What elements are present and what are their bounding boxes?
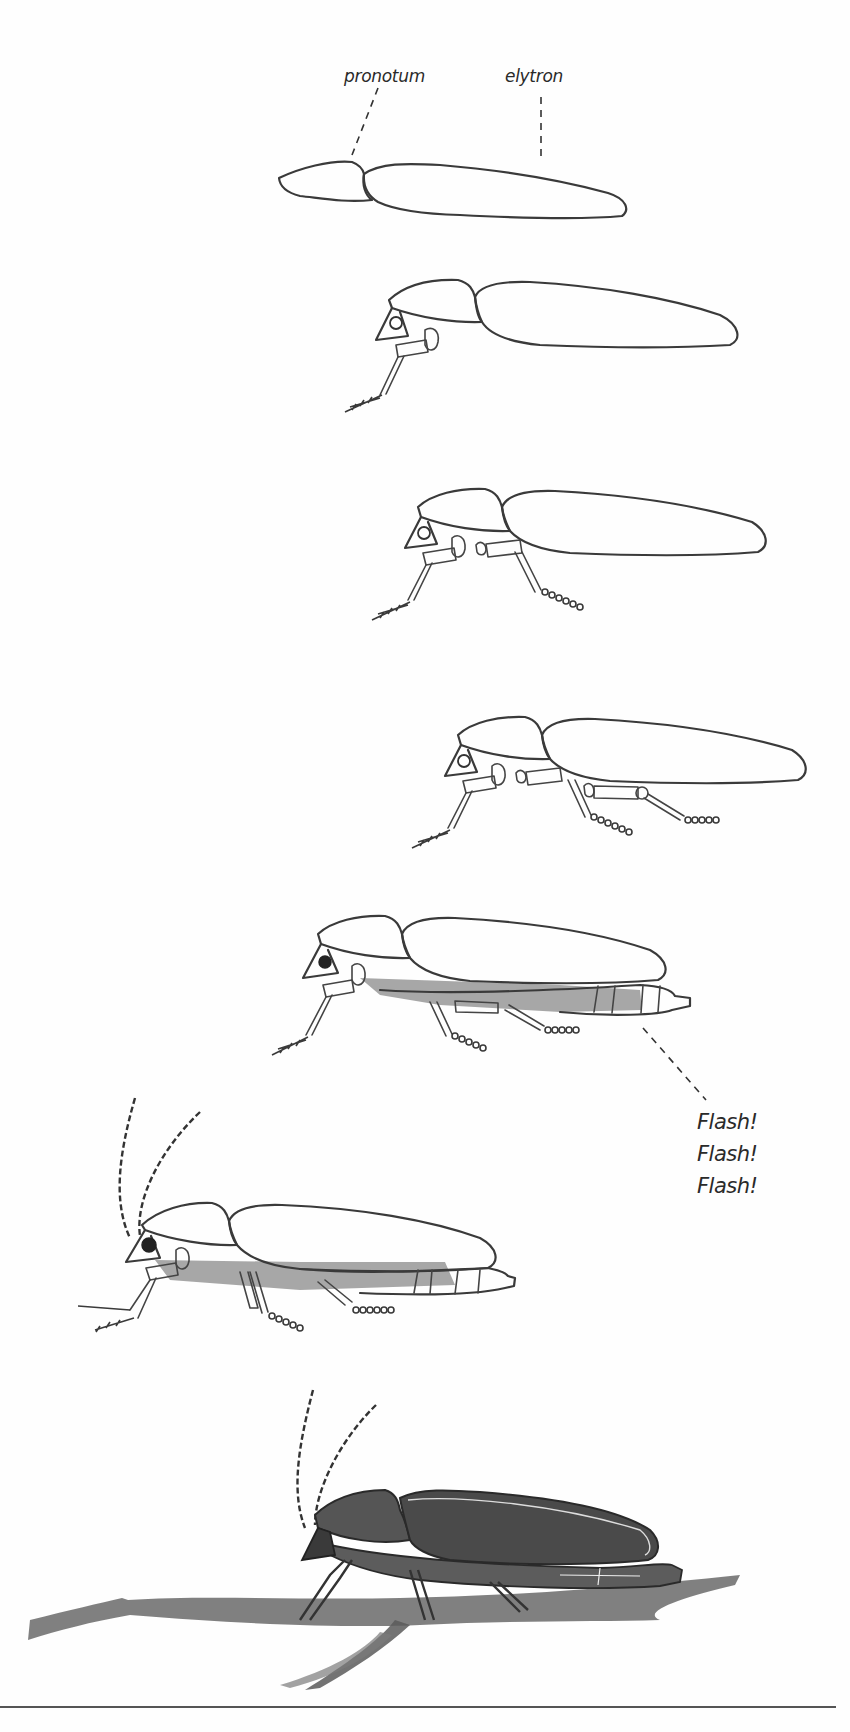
elytron-label: elytron [505, 66, 563, 86]
stage-1-outline [279, 88, 626, 218]
flash-leader-line [643, 1028, 706, 1100]
firefly-diagram: pronotum elytron Flash! Flash! Flash! [0, 0, 850, 1732]
stage-2-head-leg [345, 280, 737, 412]
eye-icon [458, 755, 470, 767]
eye-icon [418, 527, 430, 539]
stage-5-shaded-abdomen [272, 916, 706, 1100]
stage-4-three-legs [412, 717, 806, 848]
flash-text: Flash! Flash! Flash! [697, 1106, 757, 1202]
eye-icon [390, 317, 402, 329]
illustration [0, 0, 850, 1732]
pronotum-leader-line [352, 88, 378, 155]
stage-3-two-legs [372, 489, 766, 620]
eye-icon [142, 1238, 156, 1252]
flash-line-3: Flash! [697, 1170, 757, 1202]
stage-6-antennae [78, 1098, 515, 1332]
stage-7-on-twig [28, 1390, 740, 1690]
eye-icon [319, 956, 331, 968]
pronotum-label: pronotum [344, 66, 425, 86]
flash-line-2: Flash! [697, 1138, 757, 1170]
flash-line-1: Flash! [697, 1106, 757, 1138]
